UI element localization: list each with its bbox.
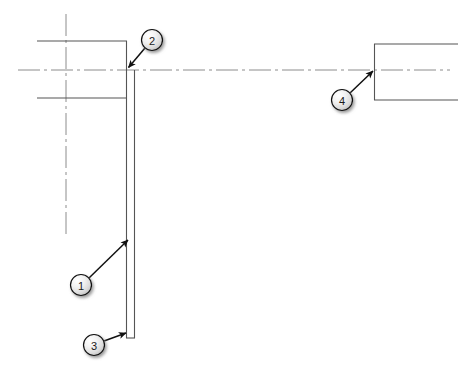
leader-line-4 — [350, 71, 373, 93]
balloon-circle-1[interactable] — [71, 275, 92, 296]
callout-leaders-group — [89, 48, 373, 341]
balloon-callout-4[interactable]: 4 — [332, 90, 353, 111]
balloon-circle-2[interactable] — [142, 30, 163, 51]
right-part-outline-group — [374, 44, 458, 100]
centerlines-group — [18, 14, 450, 238]
balloon-circle-4[interactable] — [332, 90, 353, 111]
balloon-callout-1[interactable]: 1 — [71, 275, 92, 296]
drawing-svg-surface: 1 2 3 4 — [0, 0, 468, 373]
technical-drawing-canvas: 1 2 3 4 — [0, 0, 468, 373]
leader-line-3 — [104, 333, 126, 341]
balloon-circle-3[interactable] — [84, 335, 105, 356]
leader-line-2 — [129, 48, 146, 68]
balloon-callout-2[interactable]: 2 — [142, 30, 163, 51]
leader-line-1 — [89, 240, 128, 278]
balloon-callout-3[interactable]: 3 — [84, 335, 105, 356]
